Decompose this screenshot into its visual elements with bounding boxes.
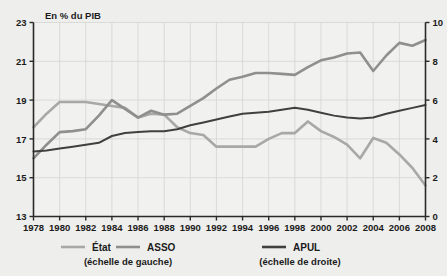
x-tick-label-2004: 2004 [363,222,385,233]
left-tick-label-17: 17 [16,134,27,145]
x-tick-label-2000: 2000 [310,222,331,233]
x-tick-label-1992: 1992 [206,222,227,233]
left-tick-label-21: 21 [16,56,27,67]
left-tick-label-15: 15 [16,172,27,183]
x-tick-label-2008: 2008 [415,222,436,233]
chart-figure: 1315171921230246810197819801982198419861… [0,0,447,276]
x-tick-label-1990: 1990 [180,222,201,233]
right-tick-label-0: 0 [433,211,438,222]
right-tick-label-2: 2 [433,172,438,183]
y-axis-unit-label: En % du PIB [45,10,101,21]
x-tick-label-2002: 2002 [337,222,358,233]
left-tick-label-13: 13 [16,211,27,222]
x-tick-label-1978: 1978 [23,222,44,233]
right-tick-label-10: 10 [433,17,444,28]
plot-background [34,23,426,217]
legend-label-asso: ASSO [147,242,176,253]
x-tick-label-1996: 1996 [258,222,279,233]
right-tick-label-4: 4 [433,134,439,145]
x-tick-label-1982: 1982 [75,222,96,233]
x-tick-label-1986: 1986 [127,222,148,233]
x-tick-label-1980: 1980 [49,222,70,233]
x-tick-label-1984: 1984 [101,222,123,233]
left-tick-label-23: 23 [16,17,27,28]
line-chart-svg: 1315171921230246810197819801982198419861… [0,0,447,276]
chart-legend: ÉtatASSOAPUL(échelle de gauche)(échelle … [61,241,341,267]
x-tick-label-2006: 2006 [389,222,410,233]
legend-note-right-scale: (échelle de droite) [259,256,340,267]
legend-note-left-scale: (échelle de gauche) [84,256,172,267]
right-tick-label-8: 8 [433,56,438,67]
gridlines [34,23,426,217]
x-tick-label-1998: 1998 [284,222,305,233]
x-tick-label-1994: 1994 [232,222,254,233]
left-tick-label-19: 19 [16,95,27,106]
right-tick-label-6: 6 [433,95,438,106]
legend-label-apul: APUL [293,242,320,253]
legend-label-etat: État [92,241,112,253]
x-tick-label-1988: 1988 [154,222,175,233]
